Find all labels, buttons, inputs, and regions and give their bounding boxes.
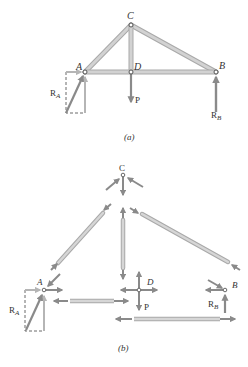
truss-members-a (85, 25, 216, 72)
load-label-p: P (135, 95, 140, 105)
load-label-p-b: P (144, 302, 149, 312)
joint-label-c: C (127, 10, 134, 21)
joint-label-a-b: A (36, 277, 43, 287)
figure-b: C (9, 163, 240, 353)
caption-b: (b) (118, 343, 129, 353)
reaction-label-ra-b: RA (9, 305, 20, 317)
reaction-label-ra: RA (50, 88, 61, 100)
joint-c-fbd: C (106, 163, 143, 195)
joint-label-d-b: D (146, 277, 154, 287)
reaction-a-components (66, 72, 85, 113)
joint-label-b-b: B (232, 280, 238, 290)
joints-a (83, 23, 218, 74)
joint-d-fbd: D P (121, 272, 157, 312)
joint-label-b: B (219, 60, 225, 71)
reaction-label-rb-b: RB (208, 299, 219, 311)
reaction-label-rb: RB (211, 110, 222, 122)
member-cb (130, 208, 240, 270)
joint-b-fbd: B RB (206, 280, 238, 313)
member-ac (51, 204, 111, 270)
joint-a-fbd: A RA (9, 274, 62, 331)
caption-a: (a) (124, 132, 135, 142)
joint-label-c-b: C (119, 163, 125, 173)
joint-label-d: D (133, 61, 142, 72)
truss-diagram: C A D B P RA RB (a) C (0, 0, 248, 367)
figure-a: C A D B P RA RB (a) (50, 10, 225, 142)
joint-label-a: A (75, 61, 83, 72)
